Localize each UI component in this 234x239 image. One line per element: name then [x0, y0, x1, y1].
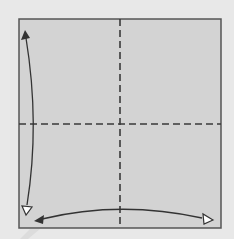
origami-diagram	[0, 0, 234, 239]
